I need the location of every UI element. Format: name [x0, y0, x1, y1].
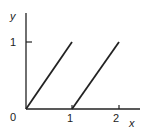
x-tick-label-1: 1 — [67, 112, 73, 124]
chart: y 1 0 1 2 x — [0, 0, 149, 136]
series-segment-2 — [72, 42, 119, 109]
x-tick-label-2: 2 — [113, 112, 119, 124]
y-tick-label-1: 1 — [10, 36, 16, 48]
series-segment-1 — [26, 42, 72, 109]
origin-label: 0 — [10, 111, 16, 123]
y-axis-label: y — [9, 10, 17, 22]
x-axis-label: x — [128, 117, 135, 129]
